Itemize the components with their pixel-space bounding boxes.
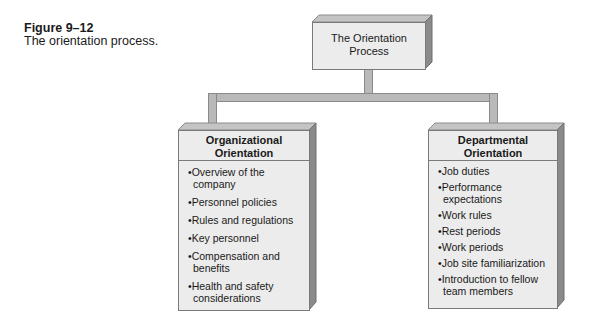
child-node-organizational: Organizational Orientation •Overview of … bbox=[178, 122, 318, 312]
departmental-title-line2: Orientation bbox=[429, 147, 557, 160]
root-node: The Orientation Process bbox=[312, 14, 434, 70]
list-item: •Rest periods bbox=[438, 225, 553, 237]
child-node-departmental: Departmental Orientation •Job duties •Pe… bbox=[428, 122, 566, 312]
figure-label: Figure 9–12 bbox=[24, 21, 93, 35]
list-item: •Job site familiarization bbox=[438, 257, 553, 269]
root-title-line1: The Orientation bbox=[313, 32, 425, 45]
organizational-title-line2: Orientation bbox=[179, 147, 309, 160]
departmental-face: Departmental Orientation •Job duties •Pe… bbox=[428, 130, 558, 309]
organizational-title-line1: Organizational bbox=[179, 134, 309, 147]
organizational-item-list: •Overview of the company •Personnel poli… bbox=[188, 166, 305, 310]
list-item: •Health and safety considerations bbox=[188, 280, 305, 304]
list-item: •Key personnel bbox=[188, 232, 305, 244]
list-item: •Work periods bbox=[438, 241, 553, 253]
list-item: •Compensation and benefits bbox=[188, 250, 305, 274]
connector-horizontal bbox=[208, 93, 498, 102]
list-item: •Overview of the company bbox=[188, 166, 305, 190]
figure-description: The orientation process. bbox=[24, 34, 158, 48]
list-item: •Personnel policies bbox=[188, 196, 305, 208]
list-item: •Performance expectations bbox=[438, 181, 553, 205]
list-item: •Rules and regulations bbox=[188, 214, 305, 226]
list-item: •Introduction to fellow team members bbox=[438, 273, 553, 297]
root-title-line2: Process bbox=[313, 45, 425, 58]
organizational-face: Organizational Orientation •Overview of … bbox=[178, 130, 310, 311]
root-node-face: The Orientation Process bbox=[312, 22, 426, 70]
organizational-header: Organizational Orientation bbox=[179, 131, 309, 161]
departmental-header: Departmental Orientation bbox=[429, 131, 557, 161]
departmental-item-list: •Job duties •Performance expectations •W… bbox=[438, 165, 553, 301]
list-item: •Job duties bbox=[438, 165, 553, 177]
list-item: •Work rules bbox=[438, 209, 553, 221]
departmental-title-line1: Departmental bbox=[429, 134, 557, 147]
root-node-label: The Orientation Process bbox=[313, 32, 425, 58]
